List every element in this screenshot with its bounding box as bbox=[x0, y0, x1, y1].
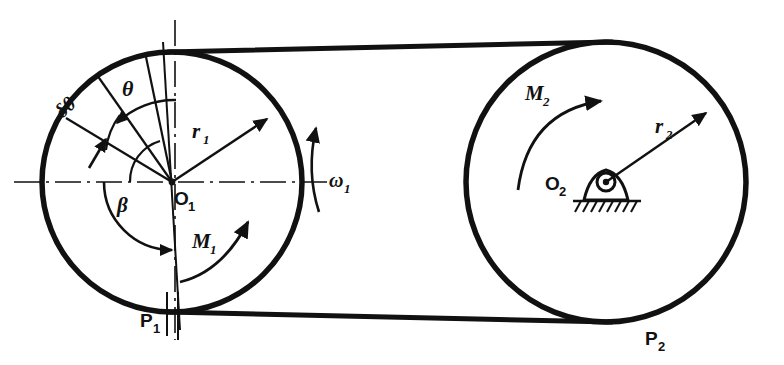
label-omega1-base: ω bbox=[329, 169, 343, 191]
label-O1: O 1 bbox=[174, 188, 195, 214]
label-P2-base: P bbox=[645, 328, 658, 349]
label-O1-subscript: 1 bbox=[188, 199, 195, 214]
belt-drive-diagram: θ δθ β r 1 ω 1 O 1 M 1 P 1 bbox=[0, 0, 784, 365]
hub-arc-left bbox=[130, 141, 160, 182]
label-P1-base: P bbox=[140, 310, 153, 331]
pulley-1-center-dot bbox=[169, 179, 176, 186]
belt-top-span bbox=[168, 42, 612, 52]
label-r2-subscript: 2 bbox=[665, 127, 673, 142]
label-omega1-subscript: 1 bbox=[344, 181, 351, 196]
diagram-canvas: θ δθ β r 1 ω 1 O 1 M 1 P 1 bbox=[0, 0, 784, 365]
label-O1-base: O bbox=[174, 188, 189, 209]
label-theta: θ bbox=[122, 76, 134, 101]
label-P2: P 2 bbox=[645, 328, 665, 354]
label-r2-base: r bbox=[655, 114, 664, 138]
vertical-reference-line bbox=[163, 42, 180, 330]
label-M1: M 1 bbox=[191, 229, 217, 257]
label-P2-subscript: 2 bbox=[658, 339, 665, 354]
label-omega1: ω 1 bbox=[329, 169, 351, 196]
label-r1-base: r bbox=[192, 119, 201, 143]
pulley-1-group bbox=[14, 20, 330, 340]
radial-line-delta-theta-lower bbox=[66, 118, 172, 182]
label-M2-base: M bbox=[524, 81, 545, 105]
delta-theta-arc bbox=[106, 115, 120, 150]
label-O2-base: O bbox=[545, 173, 560, 194]
label-beta: β bbox=[116, 193, 128, 217]
label-M2: M 2 bbox=[524, 81, 550, 109]
bearing-pin-center bbox=[603, 179, 609, 185]
label-P1-subscript: 1 bbox=[153, 321, 160, 336]
label-M1-base: M bbox=[191, 229, 212, 253]
beta-arc bbox=[104, 182, 172, 250]
label-r1: r 1 bbox=[192, 119, 210, 147]
omega1-arrow bbox=[312, 128, 319, 212]
ground-hatching bbox=[575, 201, 637, 212]
r1-radius-arrow bbox=[172, 119, 267, 182]
label-M2-subscript: 2 bbox=[542, 94, 550, 109]
pulley-2-group bbox=[466, 42, 746, 322]
belt-bottom-span bbox=[168, 312, 612, 322]
label-r2: r 2 bbox=[655, 114, 673, 142]
label-O2: O 2 bbox=[545, 173, 566, 199]
label-r1-subscript: 1 bbox=[203, 132, 210, 147]
label-M1-subscript: 1 bbox=[210, 242, 217, 257]
label-O2-subscript: 2 bbox=[559, 184, 566, 199]
delta-theta-pointer-arrow bbox=[89, 139, 106, 168]
